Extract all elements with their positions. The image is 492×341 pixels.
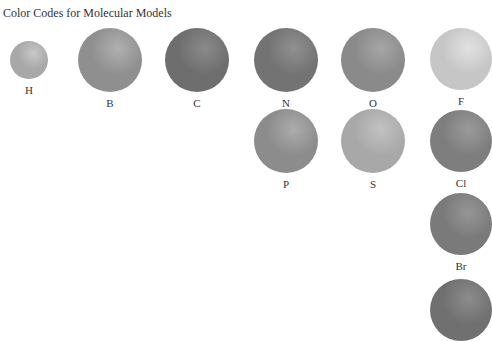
atom-sphere-p	[254, 109, 318, 173]
atom-sphere-o	[341, 28, 405, 92]
atom-sphere-br	[430, 193, 492, 255]
atom-label: F	[441, 95, 481, 107]
atom-label: B	[90, 97, 130, 109]
atom-label: P	[266, 178, 306, 190]
atom-sphere-h	[10, 41, 48, 79]
page-title: Color Codes for Molecular Models	[3, 6, 172, 21]
atom-sphere-n	[254, 28, 318, 92]
atom-label: S	[353, 178, 393, 190]
atom-label: Cl	[441, 177, 481, 189]
atom-sphere-c	[165, 28, 229, 92]
atom-sphere-b	[78, 28, 142, 92]
atom-sphere-unlabeled	[430, 279, 492, 341]
atom-label: N	[266, 97, 306, 109]
atom-sphere-cl	[430, 110, 492, 172]
atom-label: C	[177, 97, 217, 109]
atom-label: H	[9, 84, 49, 96]
atom-label: Br	[441, 260, 481, 272]
atom-sphere-s	[341, 109, 405, 173]
atom-label: O	[353, 97, 393, 109]
atom-sphere-f	[430, 28, 492, 90]
